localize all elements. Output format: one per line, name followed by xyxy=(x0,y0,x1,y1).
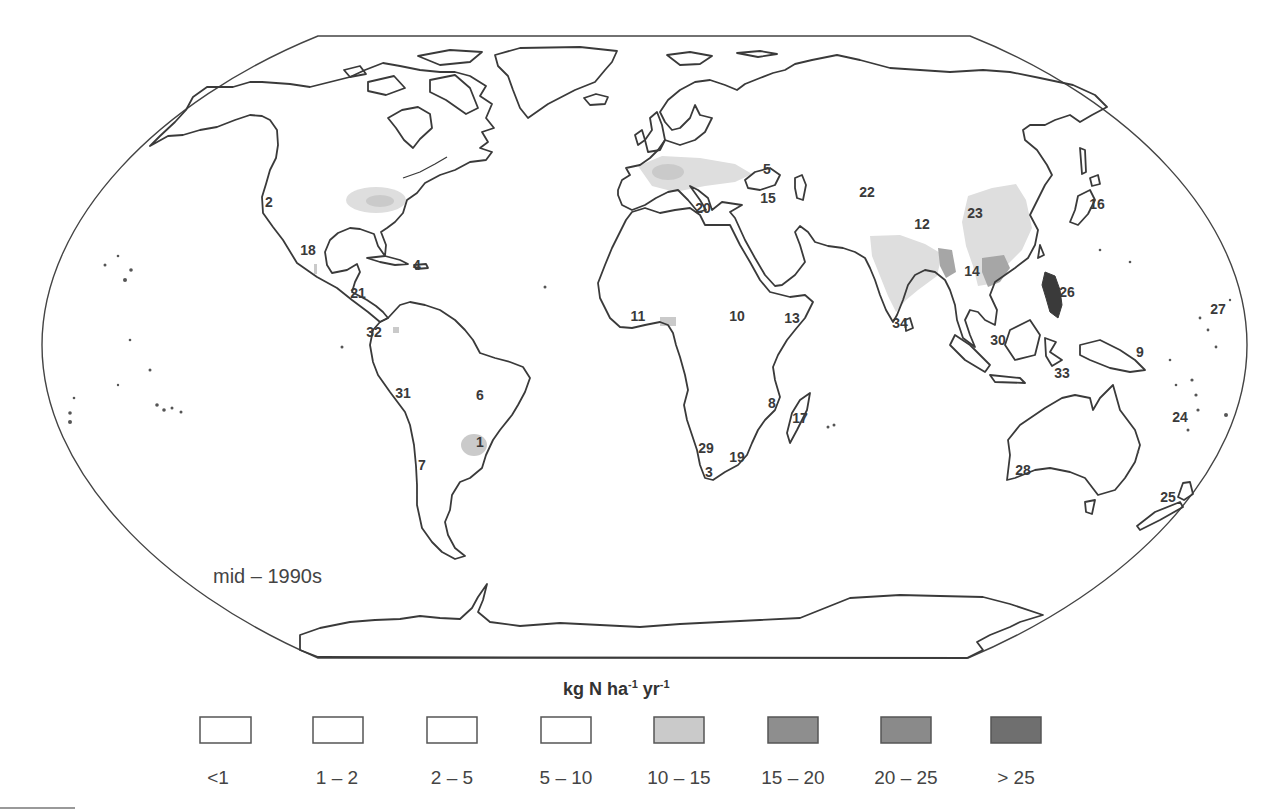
site-label: 18 xyxy=(300,242,316,258)
site-label: 15 xyxy=(760,190,776,206)
legend-item: 2 – 5 xyxy=(427,717,477,788)
legend-item: 10 – 15 xyxy=(647,717,710,788)
legend-title-superscript: -1 xyxy=(660,678,670,690)
site-label: 23 xyxy=(967,205,983,221)
legend-label: <1 xyxy=(207,767,229,788)
site-label: 13 xyxy=(784,310,800,326)
legend-title-part: kg N ha xyxy=(563,679,629,699)
legend-item: 15 – 20 xyxy=(761,717,824,788)
site-label: 14 xyxy=(964,263,980,279)
site-label: 32 xyxy=(366,324,382,340)
site-label: 4 xyxy=(413,257,421,273)
site-label: 25 xyxy=(1160,489,1176,505)
site-label: 31 xyxy=(395,385,411,401)
legend-label: 15 – 20 xyxy=(761,767,824,788)
legend-title-part: yr xyxy=(638,679,660,699)
site-label: 7 xyxy=(418,457,426,473)
deposition-map: mid – 1990s 1 2 3 4 5 6 7 8 9 10 11 12 1… xyxy=(0,0,1265,810)
legend-title-superscript: -1 xyxy=(628,678,638,690)
legend-label: 2 – 5 xyxy=(431,767,473,788)
legend-item: 5 – 10 xyxy=(540,717,593,788)
site-label: 20 xyxy=(695,200,711,216)
legend-label: 5 – 10 xyxy=(540,767,593,788)
legend-label: 1 – 2 xyxy=(316,767,358,788)
legend-swatch xyxy=(991,717,1041,743)
legend-swatch xyxy=(881,717,931,743)
legend-swatch xyxy=(654,717,704,743)
site-label: 2 xyxy=(265,194,273,210)
site-label: 30 xyxy=(990,332,1006,348)
site-label: 27 xyxy=(1210,301,1226,317)
site-label: 8 xyxy=(768,395,776,411)
shade-europe-core xyxy=(652,164,684,180)
site-label: 16 xyxy=(1089,196,1105,212)
shade-colombia xyxy=(393,327,399,333)
site-label: 10 xyxy=(729,308,745,324)
site-label: 34 xyxy=(892,315,908,331)
site-label: 3 xyxy=(705,464,713,480)
legend: kg N ha-1 yr-1 <1 1 – 2 2 – 5 5 – 10 10 … xyxy=(200,678,1041,788)
legend-item: > 25 xyxy=(991,717,1041,788)
legend-item: 20 – 25 xyxy=(874,717,937,788)
legend-swatch xyxy=(768,717,818,743)
site-label: 33 xyxy=(1054,365,1070,381)
legend-swatch xyxy=(541,717,591,743)
legend-item: 1 – 2 xyxy=(313,717,363,788)
shade-mexico xyxy=(314,264,317,274)
legend-swatch xyxy=(313,717,363,743)
legend-label: 20 – 25 xyxy=(874,767,937,788)
site-label: 12 xyxy=(914,216,930,232)
site-label: 26 xyxy=(1059,284,1075,300)
site-label: 5 xyxy=(763,161,771,177)
site-label: 6 xyxy=(476,387,484,403)
site-label: 17 xyxy=(792,410,808,426)
legend-label: > 25 xyxy=(997,767,1035,788)
site-label: 19 xyxy=(729,449,745,465)
shade-eastern-us-core xyxy=(366,195,394,207)
legend-title: kg N ha-1 yr-1 xyxy=(563,678,670,699)
legend-label: 10 – 15 xyxy=(647,767,710,788)
legend-swatch xyxy=(427,717,477,743)
site-label: 11 xyxy=(631,308,646,324)
site-label: 21 xyxy=(350,285,366,301)
legend-item: <1 xyxy=(200,717,251,788)
site-label: 29 xyxy=(698,440,714,456)
legend-swatch xyxy=(200,717,251,743)
site-label: 28 xyxy=(1015,462,1031,478)
site-label: 9 xyxy=(1136,344,1144,360)
site-label: 24 xyxy=(1172,409,1188,425)
period-label: mid – 1990s xyxy=(213,565,322,587)
site-label: 1 xyxy=(476,434,484,450)
site-label: 22 xyxy=(859,184,875,200)
